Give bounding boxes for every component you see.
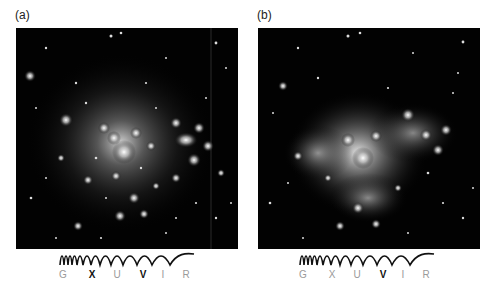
- spectrum-b: G X U V I R: [298, 250, 438, 290]
- wavelength-wave-icon: [58, 250, 198, 268]
- cluster-image-a: [16, 28, 238, 249]
- band-i: I: [402, 269, 405, 280]
- galaxy-cluster-icon: [258, 28, 480, 249]
- band-u: U: [113, 269, 120, 280]
- band-v: V: [380, 269, 387, 280]
- band-i: I: [162, 269, 165, 280]
- band-g: G: [299, 269, 307, 280]
- band-x: X: [89, 269, 96, 280]
- wavelength-wave-icon: [298, 250, 438, 268]
- panel-label-a: (a): [15, 8, 30, 22]
- band-r: R: [182, 269, 189, 280]
- band-r: R: [422, 269, 429, 280]
- cluster-image-b: [258, 28, 480, 249]
- band-g: G: [59, 269, 67, 280]
- spectrum-a: G X U V I R: [58, 250, 198, 290]
- galaxy-cluster-icon: [16, 28, 238, 249]
- band-u: U: [353, 269, 360, 280]
- panel-label-b: (b): [257, 8, 272, 22]
- band-v: V: [140, 269, 147, 280]
- band-x: X: [329, 269, 336, 280]
